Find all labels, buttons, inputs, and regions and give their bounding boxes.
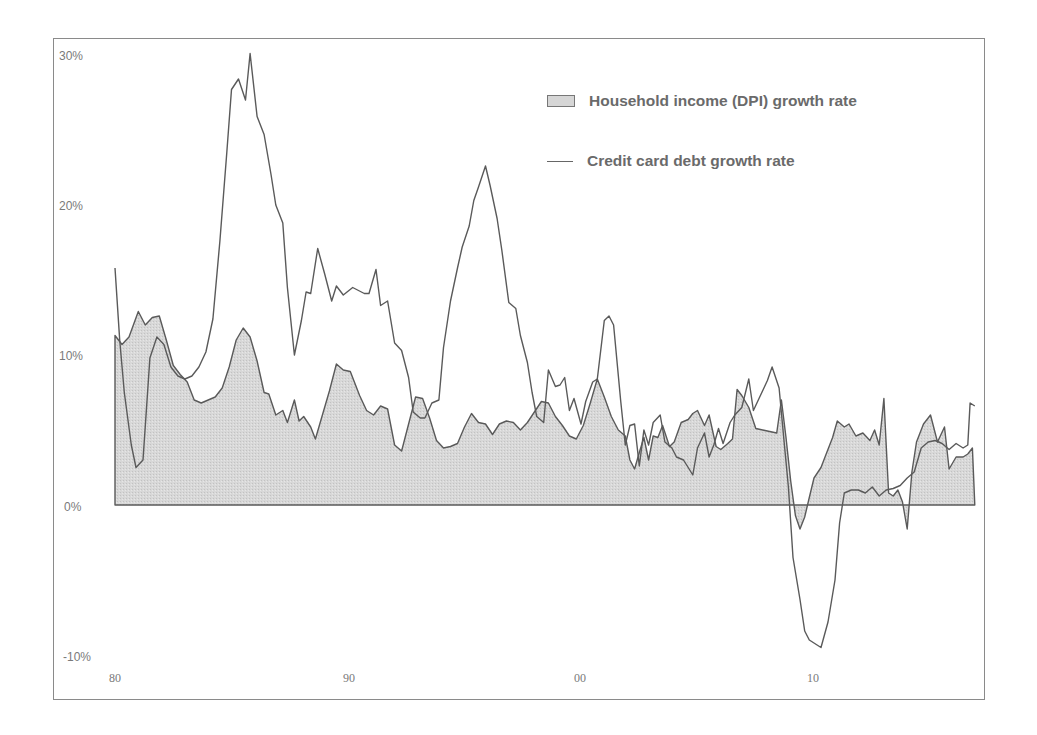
legend-label: Household income (DPI) growth rate bbox=[589, 92, 857, 110]
x-tick-label: 00 bbox=[574, 671, 586, 686]
y-tick-label: 30% bbox=[59, 49, 83, 63]
legend-item-dpi: Household income (DPI) growth rate bbox=[547, 92, 857, 110]
x-tick-label: 10 bbox=[807, 671, 819, 686]
x-tick-label: 90 bbox=[343, 671, 355, 686]
line-swatch-icon bbox=[547, 161, 573, 162]
y-tick-label: -10% bbox=[63, 650, 91, 664]
y-tick-label: 20% bbox=[59, 199, 83, 213]
legend-label: Credit card debt growth rate bbox=[587, 152, 795, 170]
area-swatch-icon bbox=[547, 95, 575, 107]
legend-item-credit-card: Credit card debt growth rate bbox=[547, 152, 795, 170]
x-tick-label: 80 bbox=[109, 671, 121, 686]
dpi-area-series bbox=[115, 312, 975, 530]
plot-area bbox=[0, 0, 1037, 735]
y-tick-label: 10% bbox=[59, 349, 83, 363]
y-tick-label: 0% bbox=[64, 500, 81, 514]
